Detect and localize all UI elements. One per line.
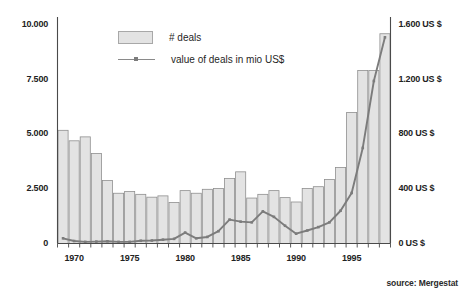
y-axis-right-tick-label: 1.600 US $ xyxy=(399,19,466,29)
line-marker xyxy=(373,80,376,83)
bar xyxy=(114,193,124,243)
bar xyxy=(225,178,235,243)
x-axis-tick-label: 1990 xyxy=(276,253,316,263)
y-axis-left-tick-label: 7.500 xyxy=(2,74,48,84)
chart-legend: # deals value of deals in mio US$ xyxy=(118,26,284,70)
line-marker xyxy=(173,238,176,241)
line-marker xyxy=(139,239,142,242)
line-marker xyxy=(228,218,231,221)
line-marker xyxy=(195,237,198,240)
bar xyxy=(313,187,323,244)
bar xyxy=(324,179,334,243)
line-marker xyxy=(306,229,309,232)
line-marker xyxy=(384,36,387,39)
line-marker xyxy=(262,210,265,213)
legend-line-marker-icon xyxy=(134,57,138,61)
bar xyxy=(136,194,146,243)
bar xyxy=(80,137,90,244)
bar xyxy=(125,192,135,244)
bar xyxy=(91,153,101,243)
y-axis-left-tick-label: 0 xyxy=(2,238,48,248)
line-marker xyxy=(317,226,320,229)
x-axis-tick-label: 1985 xyxy=(221,253,261,263)
bar xyxy=(213,188,223,243)
y-axis-left-tick-label: 5.000 xyxy=(2,128,48,138)
bar xyxy=(302,188,312,243)
bar xyxy=(380,34,390,244)
x-axis-tick-label: 1995 xyxy=(332,253,372,263)
bar xyxy=(58,130,68,243)
bar xyxy=(369,70,379,243)
bar xyxy=(258,194,268,243)
x-axis-tick-label: 1980 xyxy=(165,253,205,263)
line-marker xyxy=(128,241,131,244)
bar xyxy=(147,197,157,243)
bar xyxy=(236,172,246,244)
line-marker xyxy=(106,240,109,243)
line-marker xyxy=(73,240,76,243)
bar xyxy=(69,141,79,244)
line-marker xyxy=(350,192,353,195)
bar xyxy=(358,70,368,243)
chart-container: # deals value of deals in mio US$ 10.000… xyxy=(0,0,466,294)
line-marker xyxy=(95,240,98,243)
x-axis-tick-label: 1970 xyxy=(54,253,94,263)
line-marker xyxy=(206,236,209,239)
legend-line-swatch-icon xyxy=(118,53,155,66)
line-marker xyxy=(84,241,87,244)
line-marker xyxy=(117,241,120,244)
y-axis-right-tick-label: 800 US $ xyxy=(399,128,466,138)
bar xyxy=(291,202,301,244)
x-axis-tick-label: 1975 xyxy=(110,253,150,263)
line-marker xyxy=(250,221,253,224)
line-marker xyxy=(217,230,220,233)
legend-bar-swatch-icon xyxy=(118,31,153,44)
line-marker xyxy=(162,238,165,241)
y-axis-left-tick-label: 2.500 xyxy=(2,183,48,193)
line-marker xyxy=(151,239,154,242)
line-marker xyxy=(239,220,242,223)
bar xyxy=(102,181,112,244)
y-axis-right-tick-label: 400 US $ xyxy=(399,183,466,193)
line-marker xyxy=(361,147,364,150)
line-marker xyxy=(184,231,187,234)
source-note: source: Mergestat xyxy=(386,278,458,288)
bar xyxy=(247,198,257,243)
bar xyxy=(158,196,168,244)
y-axis-right-tick-label: 0 US $ xyxy=(399,238,466,248)
legend-label-deals: # deals xyxy=(169,32,201,43)
line-marker xyxy=(273,216,276,219)
line-marker xyxy=(339,209,342,212)
line-marker xyxy=(62,237,65,240)
y-axis-right-tick-label: 1.200 US $ xyxy=(399,74,466,84)
line-marker xyxy=(328,221,331,224)
legend-label-value: value of deals in mio US$ xyxy=(171,54,284,65)
legend-item-deals: # deals xyxy=(118,26,284,48)
line-marker xyxy=(295,232,298,235)
legend-item-value: value of deals in mio US$ xyxy=(118,48,284,70)
y-axis-left-tick-label: 10.000 xyxy=(2,19,48,29)
line-marker xyxy=(284,224,287,227)
bar xyxy=(280,198,290,244)
